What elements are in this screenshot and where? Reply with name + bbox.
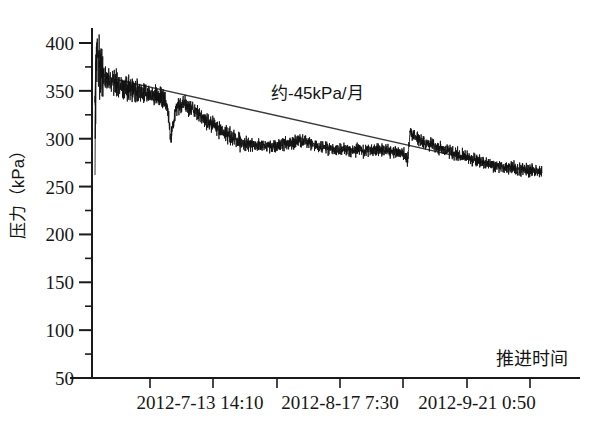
trend-slope-annotation: 约-45kPa/月: [271, 79, 364, 104]
y-tick-label: 350: [0, 81, 74, 100]
y-axis-title: 压力（kPa）: [4, 111, 29, 271]
pressure-data-line: [95, 34, 542, 177]
x-tick-label: 2012-7-13 14:10: [136, 393, 263, 412]
y-tick-label: 400: [0, 34, 74, 53]
chart-canvas: [0, 0, 597, 443]
y-ticks-group: [79, 43, 92, 378]
x-axis-title: 推进时间: [496, 344, 568, 370]
pressure-time-chart: 40035030025020015010050 2012-7-13 14:102…: [0, 0, 597, 443]
y-tick-label: 100: [0, 321, 74, 340]
x-tick-label: 2012-8-17 7:30: [281, 393, 399, 412]
x-ticks-group: [150, 378, 530, 388]
y-tick-label: 50: [0, 369, 74, 388]
x-tick-label: 2012-9-21 0:50: [418, 393, 536, 412]
data-series-group: [95, 34, 542, 177]
y-tick-label: 150: [0, 273, 74, 292]
